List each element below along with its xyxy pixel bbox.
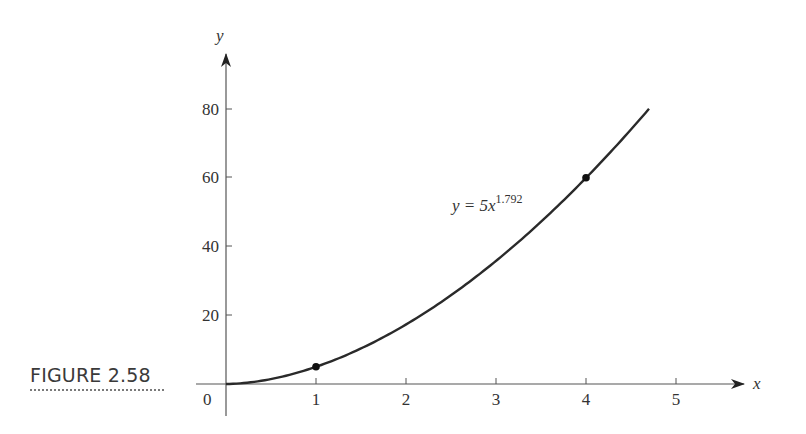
equation-exponent: 1.792 [496, 192, 523, 206]
y-tick-label: 20 [202, 306, 219, 325]
y-tick-label: 40 [202, 237, 219, 256]
x-axis-label: x [752, 374, 761, 393]
marked-points [312, 174, 590, 371]
y-tick-label: 80 [202, 100, 219, 119]
x-tick-label: 2 [402, 390, 411, 409]
data-point-marker [582, 174, 590, 182]
y-axis-label: y [214, 26, 224, 45]
x-tick-label: 3 [492, 390, 501, 409]
x-tick-label: 1 [312, 390, 321, 409]
x-tick-label: 5 [672, 390, 681, 409]
equation-base: y = 5x [450, 196, 496, 215]
curve-equation-label: y = 5x1.792 [450, 192, 523, 215]
power-function-chart: x y 0 1 2 3 4 5 20 40 60 80 y = 5x1.792 [0, 0, 806, 434]
y-tick-label: 60 [202, 168, 219, 187]
x-ticks: 1 2 3 4 5 [312, 378, 681, 409]
power-curve [226, 109, 649, 384]
x-tick-label: 4 [582, 390, 591, 409]
origin-label: 0 [203, 390, 212, 409]
y-ticks: 20 40 60 80 [202, 100, 232, 325]
data-point-marker [312, 363, 320, 371]
